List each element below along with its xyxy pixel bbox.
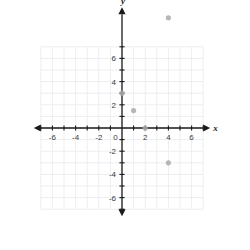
origin-label: 0 — [113, 133, 118, 142]
x-tick-label: -2 — [95, 133, 103, 142]
data-point — [166, 15, 171, 20]
y-tick-label: -4 — [109, 170, 117, 179]
data-point — [131, 108, 136, 113]
x-axis-arrow-right — [203, 124, 210, 131]
scatter-plot-graph: -6-4-20246-6-4-2246xy — [0, 0, 250, 250]
y-tick-label: 4 — [112, 78, 117, 87]
axes — [34, 7, 210, 216]
x-tick-label: 4 — [166, 133, 171, 142]
y-tick-label: 2 — [112, 101, 117, 110]
data-point — [166, 160, 171, 165]
coordinate-plane-figure: -6-4-20246-6-4-2246xy — [0, 0, 250, 250]
y-axis-arrow-down — [118, 209, 125, 216]
x-tick-label: -6 — [49, 133, 57, 142]
y-axis-label: y — [120, 0, 126, 6]
data-point — [143, 125, 148, 130]
x-axis-label: x — [212, 123, 218, 133]
data-point — [119, 91, 124, 96]
y-tick-label: -2 — [109, 147, 117, 156]
x-tick-label: 6 — [189, 133, 194, 142]
x-axis-arrow-left — [34, 124, 41, 131]
x-tick-label: 2 — [143, 133, 148, 142]
y-axis-arrow-up — [118, 7, 125, 14]
y-tick-label: -6 — [109, 194, 117, 203]
y-tick-label: 6 — [112, 54, 117, 63]
x-tick-label: -4 — [72, 133, 80, 142]
